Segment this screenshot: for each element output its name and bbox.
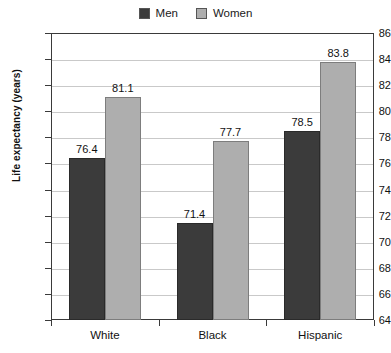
bar-value-label: 83.8 [314, 48, 362, 59]
x-axis-category-black: Black [163, 330, 263, 342]
x-axis-category-hispanic: Hispanic [270, 330, 370, 342]
bar-value-label: 77.7 [207, 127, 255, 138]
x-axis-tick [159, 320, 160, 326]
x-axis-tick [374, 320, 375, 326]
legend-label-men: Men [156, 8, 178, 20]
legend-swatch-women [196, 8, 207, 19]
bar-white-men [69, 158, 105, 320]
y-axis-title: Life expectancy (years) [11, 41, 22, 211]
legend-label-women: Women [213, 8, 252, 20]
bar-hispanic-women [320, 62, 356, 320]
bar-value-label: 76.4 [63, 144, 111, 155]
bar-value-label: 71.4 [171, 209, 219, 220]
bar-value-label: 81.1 [99, 83, 147, 94]
bar-hispanic-men [284, 131, 320, 320]
x-axis-category-white: White [55, 330, 155, 342]
bar-black-women [213, 141, 249, 320]
legend-item-women: Women [196, 8, 252, 20]
bar-value-label: 78.5 [278, 117, 326, 128]
legend-item-men: Men [139, 8, 178, 20]
legend-swatch-men [139, 8, 150, 19]
bars-layer [51, 33, 374, 320]
bar-white-women [105, 97, 141, 320]
bar-chart: Men Women Life expectancy (years) 868482… [0, 0, 391, 353]
x-axis-tick [266, 320, 267, 326]
x-axis-tick [51, 320, 52, 326]
chart-legend: Men Women [0, 8, 391, 20]
bar-black-men [177, 223, 213, 320]
